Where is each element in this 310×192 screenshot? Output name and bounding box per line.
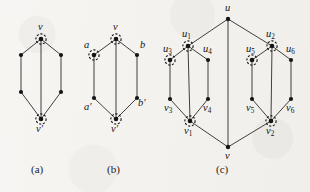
- label-b-a-prime: a′: [84, 102, 92, 113]
- label-c-u6-sub: 6: [291, 48, 295, 56]
- vertex-b-a: [92, 53, 97, 58]
- label-c-u4: u4: [203, 44, 212, 56]
- figure-diagram: v v′ v a b a′ b′ v′ u v u1 u2 u3 u4 u5 u…: [0, 0, 310, 192]
- vertex-c-v4: [206, 97, 210, 101]
- label-c-v1-sub: 1: [189, 130, 193, 138]
- caption-b: (b): [107, 163, 120, 175]
- label-c-v2-sub: 2: [271, 130, 275, 138]
- label-b-v-prime: v′: [111, 124, 118, 135]
- label-c-u3-sub: 3: [168, 48, 172, 56]
- vertex-a-v: [39, 37, 44, 42]
- label-c-u2: u2: [266, 29, 275, 41]
- label-c-u2-sub: 2: [271, 33, 275, 41]
- vertex-c-v6: [289, 97, 293, 101]
- label-c-u: u: [225, 3, 230, 14]
- caption-a: (a): [31, 163, 43, 175]
- vertex-c-u4: [206, 58, 210, 62]
- caption-c: (c): [216, 163, 228, 175]
- panel-b-vertices: [92, 37, 139, 122]
- vertex-b-b: [135, 53, 139, 57]
- label-c-u1: u1: [182, 29, 191, 41]
- label-c-v5-sub: 5: [251, 107, 255, 115]
- label-a-v: v: [38, 22, 43, 33]
- label-c-u1-sub: 1: [187, 33, 191, 41]
- vertex-c-u5: [250, 58, 255, 63]
- vertex-c-u2: [270, 44, 275, 49]
- label-c-u4-sub: 4: [208, 48, 212, 56]
- label-c-v6: v6: [286, 103, 294, 115]
- vertex-b-v: [114, 37, 119, 42]
- label-b-b-prime: b′: [138, 98, 146, 109]
- vertex-c-u3: [168, 58, 173, 63]
- vertex-c-u: [226, 17, 230, 21]
- vertex-b-a-prime: [92, 96, 96, 100]
- vertex-c-v: [226, 145, 230, 149]
- label-c-v1: v1: [184, 126, 192, 138]
- panel-a-edges: [21, 39, 61, 119]
- label-b-a: a: [84, 40, 89, 51]
- label-c-u5: u5: [246, 44, 255, 56]
- label-b-v: v: [113, 22, 118, 33]
- vertex-c-u1: [186, 44, 191, 49]
- vertex-a-v-prime: [39, 117, 44, 122]
- vertex-c-v1: [188, 119, 193, 124]
- label-c-u6: u6: [286, 44, 295, 56]
- label-c-u5-sub: 5: [251, 48, 255, 56]
- vertex-c-v2: [269, 119, 274, 124]
- vertex-c-u6: [289, 58, 293, 62]
- label-c-v5: v5: [246, 103, 254, 115]
- label-c-v3: v3: [164, 103, 172, 115]
- label-c-v: v: [225, 151, 230, 162]
- label-c-v2: v2: [266, 126, 274, 138]
- label-c-v4-sub: 4: [208, 107, 212, 115]
- label-c-v3-sub: 3: [169, 107, 173, 115]
- label-c-v6-sub: 6: [291, 107, 295, 115]
- vertex-c-v5: [250, 97, 254, 101]
- label-c-u3: u3: [163, 44, 172, 56]
- vertex-b-v-prime: [114, 117, 119, 122]
- panel-b-edges: [94, 39, 137, 119]
- label-b-b: b: [140, 40, 145, 51]
- graph-canvas: [0, 0, 310, 192]
- label-c-v4: v4: [203, 103, 211, 115]
- label-a-v-prime: v′: [36, 124, 43, 135]
- vertex-c-v3: [168, 97, 172, 101]
